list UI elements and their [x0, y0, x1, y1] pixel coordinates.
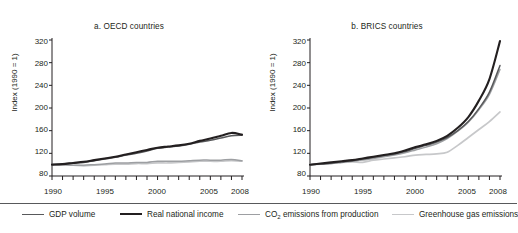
- legend-top-rule: [0, 203, 517, 204]
- legend-item-co2-emissions: CO2 emissions from production: [238, 205, 378, 223]
- legend-swatch-gdp-volume: [22, 214, 44, 215]
- legend-label-co2-rest: emissions from production: [281, 210, 379, 219]
- legend-item-real-national-income: Real national income: [120, 205, 223, 223]
- chart-panel-oecd: a. OECD countries Index (1990 = 1) 320 2…: [0, 0, 258, 200]
- legend-label-co2-subscript: 2: [277, 214, 280, 220]
- legend-label-co2-main: CO: [265, 210, 277, 219]
- chart-legend: GDP volume Real national income CO2 emis…: [0, 205, 517, 227]
- legend-swatch-co2-emissions: [238, 214, 260, 215]
- legend-item-gdp-volume: GDP volume: [22, 205, 95, 223]
- legend-label-real-national-income: Real national income: [147, 210, 223, 219]
- legend-label-ghg-emissions: Greenhouse gas emissions: [419, 210, 518, 219]
- legend-swatch-ghg-emissions: [392, 214, 414, 215]
- legend-item-ghg-emissions: Greenhouse gas emissions: [392, 205, 518, 223]
- legend-label-co2-emissions: CO2 emissions from production: [265, 210, 378, 219]
- chart-panel-brics: b. BRICS countries Index (1990 = 1) 320 …: [258, 0, 516, 200]
- legend-label-gdp-volume: GDP volume: [49, 210, 95, 219]
- legend-swatch-real-national-income: [120, 213, 142, 215]
- plot-area-oecd: [0, 0, 258, 200]
- plot-area-brics: [258, 0, 516, 200]
